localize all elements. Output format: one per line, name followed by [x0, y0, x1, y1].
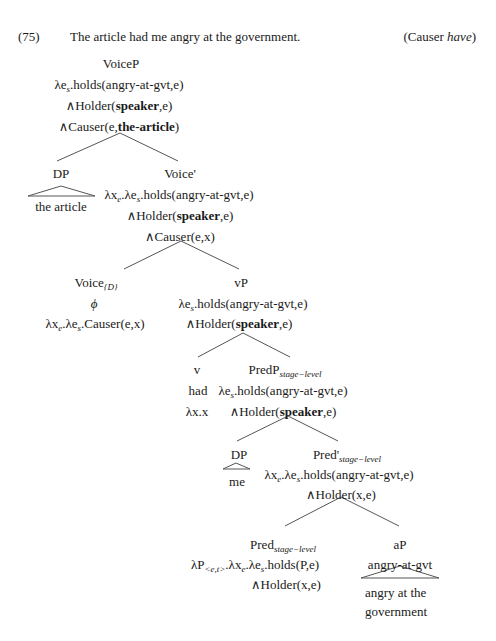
node-voicebar-sem-1: λxe.λes.holds(angry-at-gvt,e): [104, 187, 253, 203]
node-aP-label: aP: [394, 537, 407, 553]
node-vP-label: vP: [234, 275, 248, 291]
node-predP-sem-1: λes.holds(angry-at-gvt,e): [219, 383, 348, 399]
node-dp-subject-text: the article: [35, 199, 87, 215]
example-number: (75): [18, 29, 40, 45]
node-voice-head-label: Voice{D}: [74, 275, 117, 291]
node-voicebar-sem-2: ∧Holder(speaker,e): [127, 208, 234, 224]
node-pred-head-sem-2: ∧Holder(x,e): [251, 577, 321, 593]
node-v-head-sem: λx.x: [186, 404, 209, 420]
branch-voiceP-dp: [57, 133, 120, 161]
node-vP-sem-1: λes.holds(angry-at-gvt,e): [179, 296, 308, 312]
node-voice-head-phon: ϕ: [91, 296, 98, 312]
triangle-dp-object: [223, 463, 250, 469]
example-sentence: The article had me angry at the governme…: [70, 29, 300, 45]
node-voiceP-sem-2: ∧Holder(speaker,e): [66, 98, 173, 114]
node-aP-sem: angry-at-gvt: [368, 557, 432, 573]
node-aP-text-1: angry at the: [365, 585, 426, 601]
node-predP-label: PredPstage−level: [248, 362, 321, 378]
node-voiceP-sem-1: λes.holds(angry-at-gvt,e): [55, 77, 184, 93]
node-voiceP-label: VoiceP: [103, 56, 140, 72]
branch-vP-v: [198, 333, 243, 357]
node-v-head-label: v: [194, 362, 201, 378]
node-pred-head-sem-1: λP<e,t>.λxe.λes.holds(P,e): [191, 557, 319, 573]
node-predbar-sem-2: ∧Holder(x,e): [306, 487, 376, 503]
node-aP-text-2: government: [365, 604, 427, 620]
branch-voicebar-voice: [124, 241, 181, 269]
node-vP-sem-2: ∧Holder(speaker,e): [186, 316, 293, 332]
node-dp-object-text: me: [229, 474, 245, 490]
branch-voiceP-voicebar: [120, 133, 178, 161]
example-label: (Causer have): [403, 29, 476, 45]
node-voicebar-sem-3: ∧Causer(e,x): [145, 229, 215, 245]
node-predbar-sem-1: λxe.λes.holds(angry-at-gvt,e): [264, 467, 413, 483]
node-v-head-phon: had: [189, 383, 208, 399]
node-pred-head-label: Predstage−level: [250, 537, 316, 553]
node-dp-subject-label: DP: [53, 166, 70, 182]
branch-voicebar-vP: [181, 241, 239, 269]
node-voiceP-sem-3: ∧Causer(e,the-article): [59, 119, 179, 135]
node-voicebar-label: Voice': [164, 166, 196, 182]
triangle-dp-subject: [28, 186, 95, 196]
node-predP-sem-2: ∧Holder(speaker,e): [230, 404, 337, 420]
branch-vP-predP: [243, 333, 290, 357]
node-dp-object-label: DP: [231, 447, 248, 463]
node-predbar-label: Pred'stage−level: [313, 447, 381, 463]
node-voice-head-sem: λxe.λes.Causer(e,x): [45, 316, 144, 332]
